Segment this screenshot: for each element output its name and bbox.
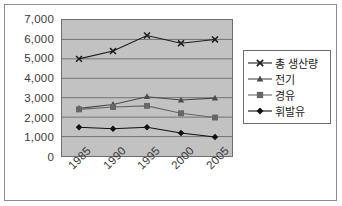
y-tick-label: 6,000 (24, 33, 54, 45)
triangle-marker (144, 93, 150, 99)
diamond-marker (110, 126, 117, 133)
legend-item[interactable]: 휘발유 (247, 103, 327, 119)
y-tick-label: 2,000 (24, 112, 54, 124)
chart-frame: 7,0006,0005,0004,0003,0002,0001,0000 198… (4, 4, 337, 201)
square-marker (178, 110, 184, 116)
diamond-marker (76, 124, 83, 131)
legend-marker-square-icon (247, 88, 273, 102)
triangle-marker (257, 75, 264, 81)
legend-label: 경유 (273, 87, 295, 103)
legend-marker-x-cross-icon (247, 56, 273, 70)
plot-area (61, 19, 233, 157)
y-tick-label: 3,000 (24, 92, 54, 104)
y-axis: 7,0006,0005,0004,0003,0002,0001,0000 (5, 19, 57, 157)
legend-label: 전기 (273, 71, 295, 87)
series-2 (76, 103, 218, 121)
square-marker (257, 92, 263, 98)
series-0 (76, 33, 218, 62)
y-tick-label: 5,000 (24, 52, 54, 64)
y-tick-label: 1,000 (24, 131, 54, 143)
diamond-marker (178, 130, 185, 137)
square-marker (76, 106, 82, 112)
triangle-marker (212, 95, 218, 101)
y-tick-label: 7,000 (24, 13, 54, 25)
series-3 (76, 124, 219, 140)
legend-label: 휘발유 (273, 103, 305, 119)
legend-marker-diamond-icon (247, 104, 273, 118)
legend-marker-triangle-icon (247, 72, 273, 86)
x-axis: 19851990199520002005 (61, 157, 233, 201)
legend-item[interactable]: 총 생산량 (247, 55, 327, 71)
diamond-marker (212, 134, 219, 141)
diamond-marker (257, 108, 264, 115)
diamond-marker (144, 124, 151, 131)
legend-item[interactable]: 경유 (247, 87, 327, 103)
y-tick-label: 0 (47, 151, 54, 163)
series-line (79, 36, 215, 59)
y-tick-label: 4,000 (24, 72, 54, 84)
square-marker (144, 103, 150, 109)
series-layer (62, 20, 232, 156)
legend-label: 총 생산량 (273, 55, 319, 71)
square-marker (212, 115, 218, 121)
legend-item[interactable]: 전기 (247, 71, 327, 87)
legend: 총 생산량전기경유휘발유 (243, 50, 331, 124)
square-marker (110, 104, 116, 110)
